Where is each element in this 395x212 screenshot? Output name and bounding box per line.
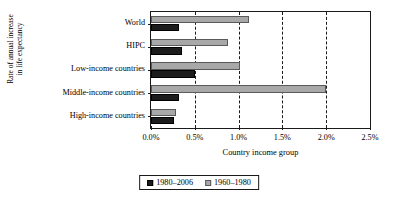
x-axis-tick-label-1: 0.5% xyxy=(175,133,215,142)
y-axis-tick-label-3: Middle-income countries xyxy=(25,88,145,97)
plot-area xyxy=(150,11,371,129)
y-axis-tick-label-1: HIPC xyxy=(25,41,145,50)
bar-1960-1980-3[interactable] xyxy=(151,85,326,93)
bar-1980-2006-0[interactable] xyxy=(151,24,179,32)
legend-label-0: 1980–2006 xyxy=(156,178,193,187)
gridline-0.5 xyxy=(195,12,196,128)
y-axis-tick-label-0: World xyxy=(25,18,145,27)
gridline-1.5 xyxy=(282,12,283,128)
legend-swatch-icon-0 xyxy=(147,180,153,186)
y-axis-tick-2 xyxy=(148,70,151,71)
y-axis-tick-1 xyxy=(148,47,151,48)
y-axis-tick-4 xyxy=(148,116,151,117)
chart-legend: 1980–2006 1960–1980 xyxy=(139,175,259,190)
x-axis-tick-label-3: 1.5% xyxy=(262,133,302,142)
plot-inner xyxy=(151,12,370,128)
y-axis-title-line2: in life expectancy xyxy=(15,0,24,114)
gridline-2 xyxy=(326,12,327,128)
x-axis-tick-0 xyxy=(151,126,152,130)
bar-1960-1980-1[interactable] xyxy=(151,39,228,47)
bar-1960-1980-2[interactable] xyxy=(151,62,240,70)
y-axis-tick-labels: WorldHIPCLow-income countriesMiddle-inco… xyxy=(26,11,148,129)
y-axis-title-line1: Rate of annual increase xyxy=(6,0,15,114)
x-axis-tick-3 xyxy=(282,126,283,130)
x-axis-tick-label-4: 2.0% xyxy=(306,133,346,142)
x-axis-tick-label-0: 0.0% xyxy=(131,133,171,142)
x-axis-tick-2 xyxy=(239,126,240,130)
bar-1960-1980-4[interactable] xyxy=(151,109,176,117)
x-axis-tick-1 xyxy=(195,126,196,130)
legend-item-0[interactable]: 1980–2006 xyxy=(147,178,193,187)
gridline-1 xyxy=(239,12,240,128)
bar-1980-2006-1[interactable] xyxy=(151,47,182,55)
x-axis-tick-4 xyxy=(326,126,327,130)
x-axis-tick-label-2: 1.0% xyxy=(219,133,259,142)
bar-1980-2006-2[interactable] xyxy=(151,70,195,78)
x-axis-tick-5 xyxy=(370,126,371,130)
bar-1960-1980-0[interactable] xyxy=(151,16,249,24)
x-axis-tick-label-5: 2.5% xyxy=(350,133,390,142)
x-axis-title: Country income group xyxy=(150,148,371,157)
bar-1980-2006-4[interactable] xyxy=(151,117,174,125)
legend-swatch-icon-1 xyxy=(205,180,211,186)
chart-figure: Rate of annual increase in life expectan… xyxy=(0,0,395,212)
y-axis-tick-0 xyxy=(148,24,151,25)
y-axis-tick-label-2: Low-income countries xyxy=(25,64,145,73)
legend-label-1: 1960–1980 xyxy=(214,178,251,187)
y-axis-tick-3 xyxy=(148,93,151,94)
legend-item-1[interactable]: 1960–1980 xyxy=(205,178,251,187)
bar-1980-2006-3[interactable] xyxy=(151,94,179,102)
y-axis-tick-label-4: High-income countries xyxy=(25,111,145,120)
